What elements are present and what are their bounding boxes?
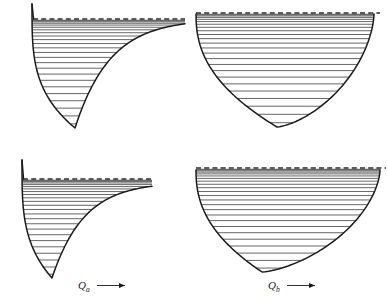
axis-labels-group: Qa Qb (78, 279, 315, 294)
energy-levels-group (22, 180, 152, 274)
axis-arrow-qa-head (119, 283, 125, 288)
energy-levels-group (196, 169, 380, 268)
axis-label-qb-text: Qb (268, 279, 280, 294)
panel-top-right (196, 13, 380, 127)
potential-curve (32, 4, 185, 128)
panel-bottom-left (22, 160, 152, 278)
potential-energy-figure: Qa Qb (0, 0, 388, 302)
axis-label-qa: Qa (78, 279, 125, 294)
axis-arrow-qb-head (309, 283, 315, 288)
axis-label-qb: Qb (268, 279, 315, 294)
energy-levels-group (196, 14, 374, 122)
potential-curves-svg: Qa Qb (0, 0, 388, 302)
panel-top-left (32, 4, 185, 128)
panel-bottom-right (196, 168, 386, 272)
axis-label-qa-text: Qa (78, 279, 90, 294)
